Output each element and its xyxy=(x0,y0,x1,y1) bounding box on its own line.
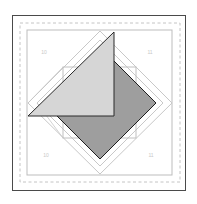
label-bottom-right: 11 xyxy=(148,152,153,158)
label-bottom-left: 10 xyxy=(43,152,49,158)
label-top-left: 10 xyxy=(41,49,47,55)
quilt-block-diagram: 10 11 10 11 xyxy=(0,0,197,204)
label-top-right: 11 xyxy=(147,49,152,55)
